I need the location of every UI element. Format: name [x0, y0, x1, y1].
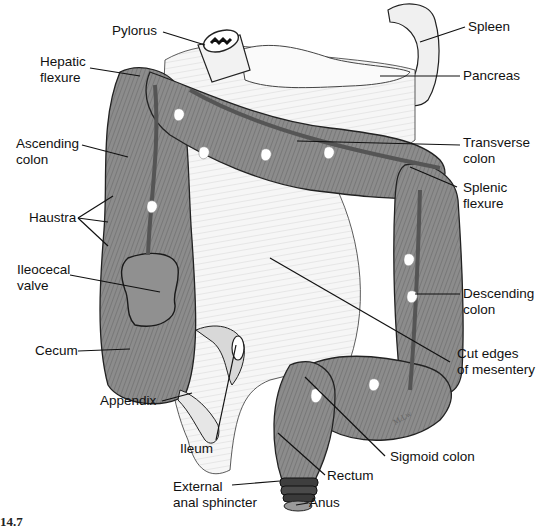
- label-splenic-flexure-line2: flexure: [463, 196, 504, 212]
- label-appendix: Appendix: [100, 393, 156, 409]
- label-cut-edges-line2: of mesentery: [457, 362, 535, 378]
- label-ascending-colon-line2: colon: [16, 152, 48, 168]
- leader-pylorus: [163, 32, 205, 45]
- label-ascending-colon-line1: Ascending: [16, 136, 79, 152]
- pancreas-shape: [240, 45, 410, 87]
- label-haustra: Haustra: [29, 210, 76, 226]
- colon-anatomy-diagram: M.Lw Pylorus Spleen Hepatic: [0, 0, 548, 530]
- label-splenic-flexure-line1: Splenic: [463, 180, 507, 196]
- label-transverse-colon-line1: Transverse: [463, 135, 530, 151]
- label-cecum: Cecum: [35, 343, 78, 359]
- label-hepatic-flexure-line2: flexure: [40, 70, 81, 86]
- label-ileocecal-valve-line1: Ileocecal: [17, 262, 70, 278]
- label-external-anal-sphincter-line2: anal sphincter: [173, 495, 257, 511]
- leader-external-anal-sphincter: [232, 481, 280, 485]
- label-descending-colon-line2: colon: [463, 302, 495, 318]
- label-anus: Anus: [309, 495, 340, 511]
- label-sigmoid-colon: Sigmoid colon: [390, 449, 475, 465]
- label-cut-edges-line1: Cut edges: [457, 346, 519, 362]
- label-pylorus: Pylorus: [112, 23, 157, 39]
- label-hepatic-flexure-line1: Hepatic: [40, 54, 86, 70]
- label-rectum: Rectum: [327, 468, 374, 484]
- label-transverse-colon-line2: colon: [463, 151, 495, 167]
- label-ileocecal-valve-line2: valve: [17, 278, 49, 294]
- figure-number: 14.7: [0, 514, 23, 530]
- label-ileum: Ileum: [180, 441, 213, 457]
- label-descending-colon-line1: Descending: [463, 286, 534, 302]
- label-pancreas: Pancreas: [463, 68, 520, 84]
- label-spleen: Spleen: [468, 19, 510, 35]
- label-external-anal-sphincter-line1: External: [173, 479, 223, 495]
